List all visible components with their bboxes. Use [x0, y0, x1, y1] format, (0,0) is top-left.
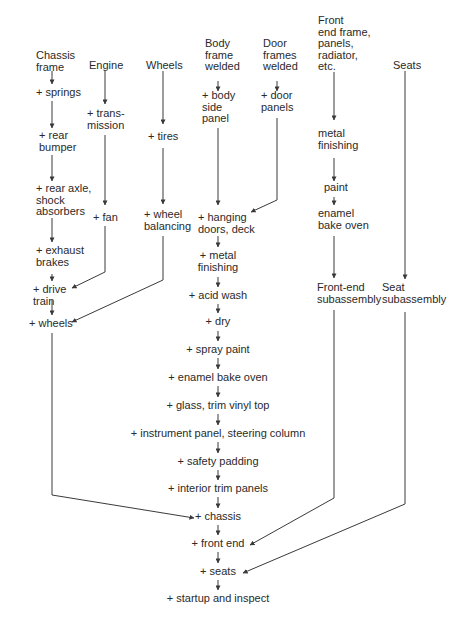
- node-door-frames-welded: Door frames welded: [263, 38, 298, 73]
- node-transmission: + trans- mission: [87, 108, 125, 131]
- node-exhaust-brakes: + exhaust brakes: [36, 245, 84, 268]
- node-door-panels: + door panels: [261, 90, 293, 113]
- node-rear-axle: + rear axle, shock absorbers: [36, 183, 91, 218]
- node-enamel-bake-oven-front: enamel bake oven: [318, 208, 369, 231]
- node-front-end-joined: + front end: [168, 538, 268, 550]
- node-seats: Seats: [393, 60, 421, 72]
- node-metal-finishing-front: metal finishing: [318, 128, 358, 151]
- node-rear-bumper: + rear bumper: [39, 130, 76, 153]
- node-seat-subassembly: Seat subassembly: [382, 282, 446, 305]
- node-engine: Engine: [89, 60, 123, 72]
- node-chassis-frame: Chassis frame: [36, 50, 75, 73]
- node-startup-inspect: + startup and inspect: [138, 593, 298, 605]
- node-body-frame-welded: Body frame welded: [205, 38, 240, 73]
- node-dry: + dry: [158, 316, 278, 328]
- node-tires: + tires: [148, 131, 178, 143]
- node-metal-finishing-main: + metal finishing: [178, 250, 258, 273]
- node-seats-joined: + seats: [168, 566, 268, 578]
- assembly-flow-diagram: Chassis frame + springs + rear bumper + …: [0, 0, 465, 638]
- node-instrument-panel: + instrument panel, steering column: [118, 428, 318, 440]
- node-drive-train: + drive train: [33, 284, 66, 307]
- node-body-side-panel: + body side panel: [202, 90, 235, 125]
- node-enamel-bake-oven-main: + enamel bake oven: [138, 372, 298, 384]
- node-chassis-joined: + chassis: [168, 511, 268, 523]
- node-paint: paint: [324, 182, 348, 194]
- node-front-end-subassembly: Front-end subassembly: [317, 282, 381, 305]
- node-springs: + springs: [36, 87, 81, 99]
- node-acid-wash: + acid wash: [158, 290, 278, 302]
- node-spray-paint: + spray paint: [148, 344, 288, 356]
- node-hanging-doors-deck: + hanging doors, deck: [198, 212, 255, 235]
- node-wheels: Wheels: [146, 60, 183, 72]
- node-safety-padding: + safety padding: [148, 456, 288, 468]
- node-glass-trim-vinyl-top: + glass, trim vinyl top: [138, 400, 298, 412]
- node-fan: + fan: [93, 212, 118, 224]
- node-front-end-frame: Front end frame, panels, radiator, etc.: [318, 15, 371, 73]
- node-wheel-balancing: + wheel balancing: [144, 209, 191, 232]
- node-wheels-added: + wheels: [29, 318, 73, 330]
- node-interior-trim-panels: + interior trim panels: [148, 483, 288, 495]
